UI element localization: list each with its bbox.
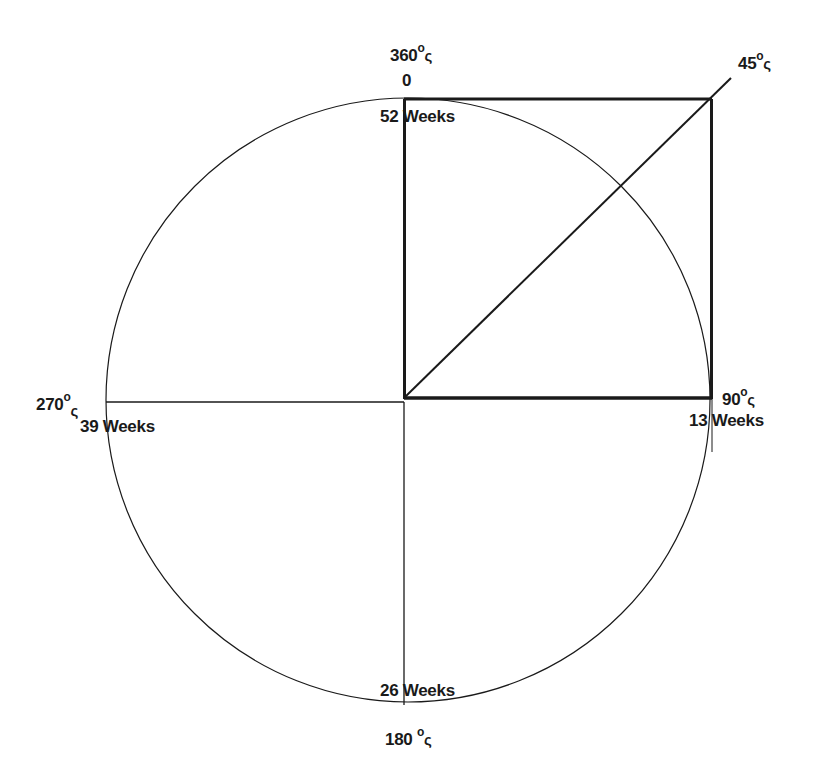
label-90-degrees: 90oς — [722, 388, 755, 408]
label-360-degrees: 360oς — [390, 44, 432, 64]
label-zero: 0 — [402, 72, 411, 89]
label-13-weeks: 13 Weeks — [689, 412, 764, 429]
label-180-degrees: 180 oς — [385, 728, 431, 748]
label-52-weeks: 52 Weeks — [380, 108, 455, 125]
label-39-weeks: 39 Weeks — [80, 418, 155, 435]
label-26-weeks: 26 Weeks — [380, 682, 455, 699]
label-45-degrees: 45oς — [738, 52, 771, 72]
label-270-degrees: 270oς — [36, 393, 78, 413]
